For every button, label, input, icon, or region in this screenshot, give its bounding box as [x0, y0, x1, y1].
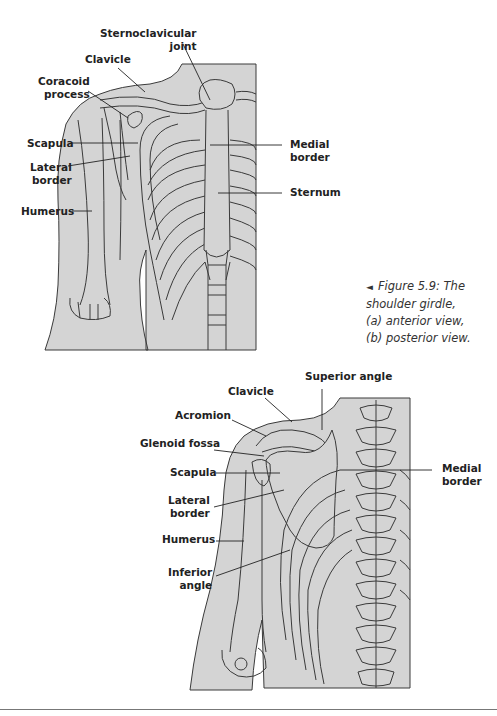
label-clavicle-anterior: Clavicle: [85, 53, 131, 66]
caption-line-2: shoulder girdle,: [366, 296, 471, 313]
label-lateral-border-posterior: Lateral border: [168, 494, 210, 520]
label-sternum: Sternum: [290, 186, 341, 199]
label-coracoid-process: Coracoid process: [38, 75, 90, 101]
label-clavicle-posterior: Clavicle: [228, 385, 274, 398]
label-scapula-anterior: Scapula: [27, 137, 74, 150]
label-acromion: Acromion: [175, 409, 231, 422]
caption-line-4: (b) posterior view.: [366, 330, 471, 347]
label-medial-border-posterior: Medial border: [442, 462, 482, 488]
label-glenoid-fossa: Glenoid fossa: [140, 437, 220, 450]
label-lateral-border-anterior: Lateral border: [30, 161, 72, 187]
label-medial-border-anterior: Medial border: [290, 138, 330, 164]
label-humerus-anterior: Humerus: [21, 205, 74, 218]
pointer-left-icon: ◄: [366, 282, 373, 292]
page-divider: [0, 709, 497, 710]
figure-caption: ◄Figure 5.9: The shoulder girdle, (a) an…: [366, 278, 471, 347]
label-inferior-angle: Inferior angle: [168, 566, 212, 592]
caption-line-3: (a) anterior view,: [366, 313, 471, 330]
caption-line-1: Figure 5.9: The: [378, 279, 465, 293]
label-scapula-posterior: Scapula: [170, 466, 217, 479]
label-sternoclavicular-joint: Sternoclavicular joint: [100, 27, 196, 53]
label-humerus-posterior: Humerus: [162, 533, 215, 546]
label-superior-angle: Superior angle: [305, 370, 392, 383]
posterior-view-illustration: [0, 0, 497, 716]
